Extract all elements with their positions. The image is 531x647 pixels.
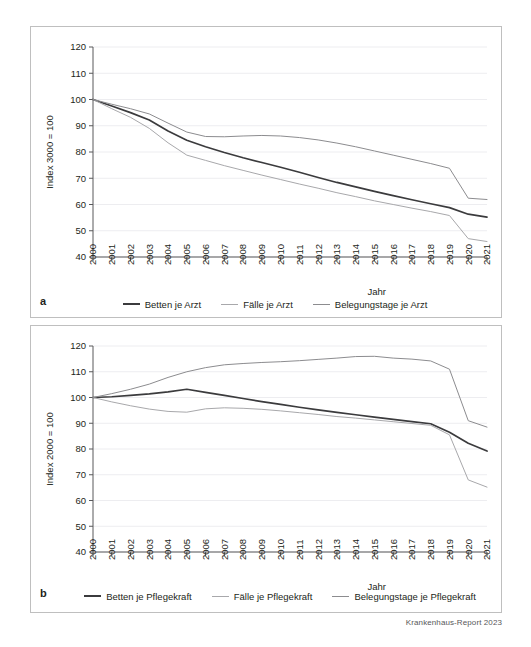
series-line-betten-je-arzt [93, 100, 487, 218]
y-tick-label: 50 [75, 521, 86, 532]
x-tick-label: 2018 [425, 244, 436, 265]
x-tick-label: 2019 [444, 539, 455, 560]
chart-a-svg: 4050607080901001101202000200120022003200… [31, 27, 501, 317]
y-tick-label: 70 [75, 173, 86, 184]
y-tick-label: 80 [75, 443, 86, 454]
x-tick-label: 2004 [162, 539, 173, 560]
legend-label: Belegungstage je Pflegekraft [354, 591, 475, 602]
x-tick-label: 2001 [106, 244, 117, 265]
legend-line-swatch [123, 303, 140, 305]
series-line-f-lle-je-pflegekraft [93, 398, 487, 488]
legend-item[interactable]: Fälle je Pflegekraft [212, 591, 313, 602]
figure-container: 4050607080901001101202000200120022003200… [0, 0, 531, 647]
x-tick-label: 2000 [87, 539, 98, 560]
y-axis-title: Index 3000 = 100 [44, 115, 55, 189]
x-tick-label: 2008 [237, 244, 248, 265]
legend-line-swatch [221, 304, 238, 305]
chart-b-legend: Betten je PflegekraftFälle je Pflegekraf… [55, 588, 505, 604]
x-tick-label: 2003 [144, 539, 155, 560]
x-tick-label: 2002 [125, 244, 136, 265]
x-tick-label: 2002 [125, 539, 136, 560]
legend-item[interactable]: Betten je Pflegekraft [84, 591, 192, 602]
x-tick-label: 2011 [294, 245, 305, 265]
x-tick-label: 2017 [406, 244, 417, 265]
x-tick-label: 2020 [463, 539, 474, 560]
chart-b-svg: 4050607080901001101202000200120022003200… [31, 326, 501, 612]
x-tick-label: 2016 [388, 244, 399, 265]
x-tick-label: 2015 [369, 244, 380, 265]
chart-a-plot-area: 4050607080901001101202000200120022003200… [31, 27, 501, 317]
chart-panel-a: 4050607080901001101202000200120022003200… [30, 26, 502, 318]
y-tick-label: 90 [75, 120, 86, 131]
y-tick-label: 110 [71, 366, 86, 377]
y-tick-label: 50 [75, 225, 86, 236]
x-tick-label: 2012 [313, 244, 324, 265]
y-tick-label: 70 [75, 469, 86, 480]
y-tick-label: 60 [75, 199, 86, 210]
legend-item[interactable]: Fälle je Arzt [221, 299, 293, 310]
y-tick-label: 120 [70, 41, 86, 52]
legend-item[interactable]: Belegungstage je Pflegekraft [332, 591, 475, 602]
x-tick-label: 2010 [275, 244, 286, 265]
x-tick-label: 2010 [275, 539, 286, 560]
legend-line-swatch [84, 595, 101, 597]
x-tick-label: 2001 [106, 539, 117, 560]
legend-label: Betten je Arzt [145, 299, 202, 310]
footer-credit: Krankenhaus-Report 2023 [406, 618, 502, 627]
legend-line-swatch [313, 304, 330, 305]
legend-label: Belegungstage je Arzt [335, 299, 427, 310]
y-axis-title: Index 2000 = 100 [44, 412, 55, 486]
legend-label: Betten je Pflegekraft [106, 591, 192, 602]
x-tick-label: 2018 [425, 539, 436, 560]
legend-label: Fälle je Pflegekraft [234, 591, 313, 602]
chart-panel-b: 4050607080901001101202000200120022003200… [30, 325, 502, 613]
chart-b-plot-area: 4050607080901001101202000200120022003200… [31, 326, 501, 612]
x-tick-label: 2017 [406, 539, 417, 560]
x-tick-label: 2007 [219, 244, 230, 265]
x-tick-label: 2016 [388, 539, 399, 560]
legend-label: Fälle je Arzt [243, 299, 293, 310]
x-tick-label: 2021 [481, 539, 492, 560]
y-tick-label: 120 [70, 340, 86, 351]
x-tick-label: 2019 [444, 244, 455, 265]
x-tick-label: 2003 [144, 244, 155, 265]
x-tick-label: 2007 [219, 539, 230, 560]
panel-b-label: b [40, 587, 47, 599]
chart-a-legend: Betten je ArztFälle je ArztBelegungstage… [55, 296, 495, 312]
y-tick-label: 90 [75, 418, 86, 429]
panel-a-label: a [40, 295, 46, 307]
x-tick-label: 2013 [331, 539, 342, 560]
x-tick-label: 2013 [331, 244, 342, 265]
x-tick-label: 2005 [181, 539, 192, 560]
x-tick-label: 2005 [181, 244, 192, 265]
x-tick-label: 2008 [237, 539, 248, 560]
legend-item[interactable]: Belegungstage je Arzt [313, 299, 427, 310]
y-tick-label: 110 [71, 68, 86, 79]
x-tick-label: 2000 [87, 244, 98, 265]
legend-item[interactable]: Betten je Arzt [123, 299, 202, 310]
series-line-belegungstage-je-pflegekraft [93, 356, 487, 427]
y-tick-label: 60 [75, 495, 86, 506]
x-tick-label: 2011 [294, 540, 305, 560]
y-tick-label: 40 [75, 251, 86, 262]
x-tick-label: 2021 [481, 244, 492, 265]
legend-line-swatch [332, 596, 349, 597]
x-tick-label: 2006 [200, 539, 211, 560]
y-tick-label: 100 [70, 392, 86, 403]
y-tick-label: 40 [75, 546, 86, 557]
x-tick-label: 2015 [369, 539, 380, 560]
x-tick-label: 2009 [256, 539, 267, 560]
x-tick-label: 2014 [350, 539, 361, 560]
series-line-betten-je-pflegekraft [93, 389, 487, 451]
series-line-belegungstage-je-arzt [93, 100, 487, 200]
x-tick-label: 2012 [313, 539, 324, 560]
x-tick-label: 2004 [162, 244, 173, 265]
x-tick-label: 2020 [463, 244, 474, 265]
y-tick-label: 100 [70, 94, 86, 105]
y-tick-label: 80 [75, 146, 86, 157]
legend-line-swatch [212, 596, 229, 597]
x-tick-label: 2014 [350, 244, 361, 265]
x-tick-label: 2006 [200, 244, 211, 265]
x-tick-label: 2009 [256, 244, 267, 265]
